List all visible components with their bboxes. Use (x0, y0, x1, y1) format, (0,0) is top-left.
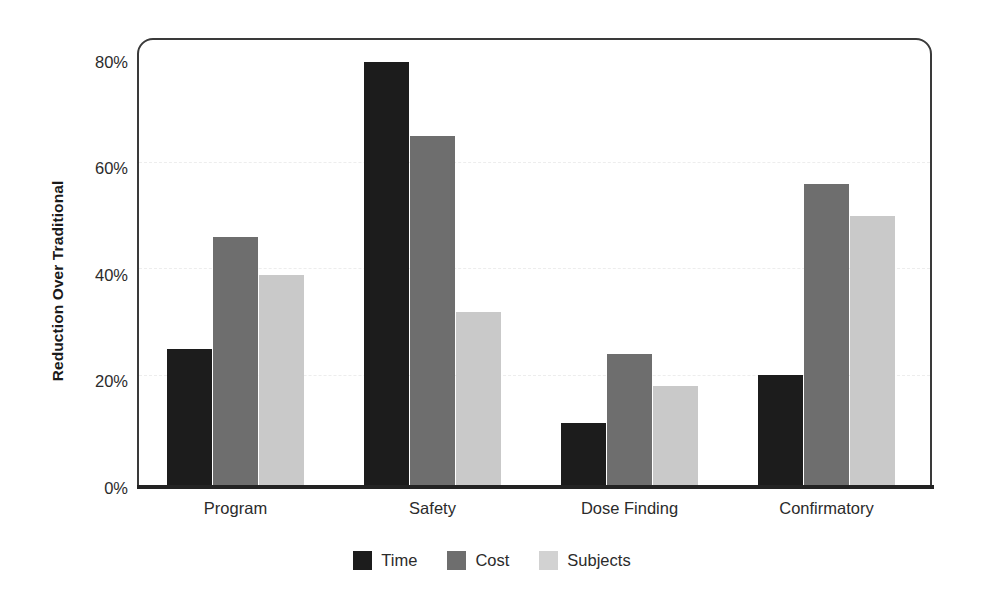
legend-swatch-icon (539, 551, 558, 570)
bar (850, 216, 895, 487)
bar (456, 312, 501, 487)
bar (167, 349, 212, 487)
x-axis-category-label: Safety (333, 500, 533, 517)
y-tick-label: 40% (66, 267, 128, 284)
bar (653, 386, 698, 487)
bar (259, 275, 304, 488)
legend-label: Time (381, 552, 417, 569)
legend-item[interactable]: Subjects (539, 551, 630, 570)
bar (561, 423, 606, 487)
legend: TimeCostSubjects (0, 551, 984, 570)
bar (607, 354, 652, 487)
plot-area (137, 38, 932, 487)
bar (213, 237, 258, 487)
legend-item[interactable]: Time (353, 551, 417, 570)
bar (364, 62, 409, 487)
legend-label: Subjects (567, 552, 630, 569)
legend-swatch-icon (447, 551, 466, 570)
x-axis-category-label: Program (136, 500, 336, 517)
bar (758, 375, 803, 487)
legend-swatch-icon (353, 551, 372, 570)
y-tick-label: 20% (66, 373, 128, 390)
y-tick-label: 60% (66, 160, 128, 177)
legend-label: Cost (475, 552, 509, 569)
x-axis-category-label: Dose Finding (530, 500, 730, 517)
y-tick-label: 0% (66, 480, 128, 497)
y-axis-tick-labels: 80% 60% 40% 20% 0% (60, 0, 128, 605)
bar (804, 184, 849, 487)
legend-item[interactable]: Cost (447, 551, 509, 570)
y-tick-label: 80% (66, 54, 128, 71)
bar-chart: Reduction Over Traditional 80% 60% 40% 2… (0, 0, 984, 605)
x-axis-category-label: Confirmatory (727, 500, 927, 517)
x-axis-baseline (137, 485, 934, 489)
x-axis-category-labels: ProgramSafetyDose FindingConfirmatory (137, 500, 932, 530)
bar (410, 136, 455, 487)
